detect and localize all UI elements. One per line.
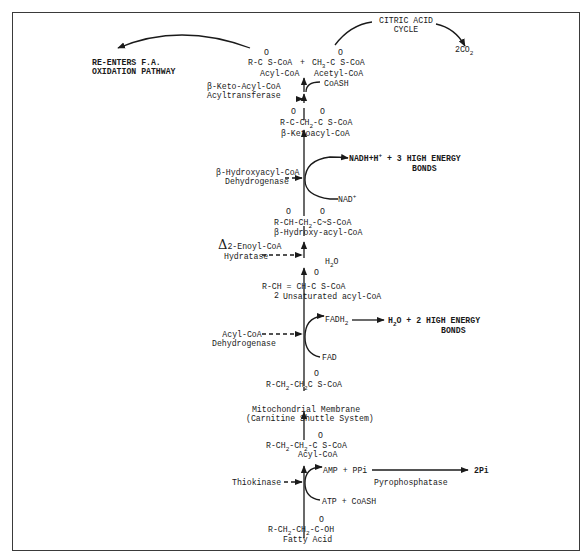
fad-cofactor: FAD [322, 353, 337, 362]
carbonyl-mark: O [264, 48, 269, 57]
acetyl-coa-name: Acetyl-CoA [314, 69, 363, 78]
ketoacyl-name: β-Ketoacyl-CoA [281, 129, 350, 138]
atp-coash-cofactor: ATP + CoASH [322, 497, 376, 506]
acyl-coa-name: Acyl-CoA [260, 69, 299, 78]
hydroxyacyl-dehydrogenase-enzyme: β-Hydroxyacyl-CoA Dehydrogenase [216, 168, 298, 186]
carbonyl-mark: O [320, 107, 325, 116]
unsaturated-formula: R-CH = CH-C S-CoA [262, 282, 346, 291]
acetyl-coa-formula: CH3-C S-CoA [312, 58, 365, 67]
acyl-coa-name-outer: Acyl-CoA [298, 450, 337, 459]
delta-symbol: Δ [218, 237, 227, 252]
ketoacyl-formula: R-C-CH2-C S-CoA [280, 118, 352, 127]
2pi-product: 2Pi [474, 466, 489, 475]
carbonyl-mark: O [314, 268, 319, 277]
carbonyl-mark: O [319, 515, 324, 524]
carbonyl-mark: O [320, 207, 325, 216]
amp-ppi-product: AMP + PPi [323, 466, 367, 475]
carbonyl-mark: O [338, 48, 343, 57]
coash-cofactor: CoASH [324, 79, 349, 88]
fatty-acid-name: Fatty Acid [283, 535, 332, 544]
plus-sign: + [300, 58, 305, 67]
nad-cofactor: NAD+ [338, 195, 356, 204]
fadh-bonds-label: BONDS [441, 326, 466, 335]
water-reactant: H2O [325, 257, 338, 266]
carbonyl-mark: O [314, 369, 319, 378]
co2-product: 2CO2 [455, 45, 473, 54]
hydratase-label: Hydratase [224, 252, 268, 261]
pathway-arrows [0, 0, 585, 560]
energy-bonds-label: BONDS [412, 164, 437, 173]
mitochondrial-membrane-label: Mitochondrial Membrane (Carnitine Shuttl… [246, 405, 366, 423]
carbonyl-mark: O [318, 431, 323, 440]
thiokinase-enzyme: Thiokinase [232, 478, 281, 487]
acyl-coa-formula-outer: R-CH2-CH2-C S-CoA [266, 441, 347, 450]
fadh2-product: FADH2 [325, 315, 348, 324]
nadh-product: NADH+H+ + 3 HIGH ENERGY [349, 154, 461, 163]
enoyl-hydratase-enzyme: Δ2-Enoyl-CoA [218, 240, 281, 251]
acyl-coa-formula-inner: R-CH2-CH2C S-CoA [266, 380, 342, 389]
citric-acid-cycle-label: CITRIC ACID CYCLE [366, 16, 446, 34]
reenters-label: RE-ENTERS F.A. OXIDATION PATHWAY [92, 58, 176, 76]
unsaturated-name: Unsaturated acyl-CoA [283, 292, 381, 301]
pyrophosphatase-enzyme: Pyrophosphatase [374, 478, 448, 487]
fatty-acid-formula: R-CH2-CH2-C-OH [268, 525, 334, 534]
hydroxyacyl-formula: R-CH-CH2-C~S-CoA [274, 218, 351, 227]
fadh-energy-label: H2O + 2 HIGH ENERGY [388, 316, 480, 325]
acyltransferase-enzyme: β-Keto-Acyl-CoA Acyltransferase [207, 82, 281, 100]
hydroxyacyl-name: β-Hydroxy-acyl-CoA [274, 228, 362, 237]
unsaturated-sub: 2 [274, 291, 279, 300]
carbonyl-mark: O [286, 207, 291, 216]
carbonyl-mark: O [291, 107, 296, 116]
acyl-coa-dehydrogenase-enzyme: Acyl-CoA Dehydrogenase [212, 330, 272, 348]
acyl-coa-formula: R-C S-CoA [248, 58, 292, 67]
